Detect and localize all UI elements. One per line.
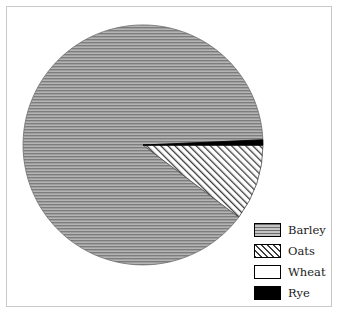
legend-label-oats: Oats — [288, 244, 315, 258]
chart-legend: Barley Oats Wheat Rye — [254, 221, 330, 302]
legend-swatch-wheat — [254, 265, 281, 279]
legend-swatch-oats — [254, 244, 281, 258]
legend-label-rye: Rye — [288, 286, 310, 300]
chart-canvas: Barley Oats Wheat Rye — [0, 0, 339, 320]
legend-swatch-barley — [254, 223, 281, 237]
legend-label-wheat: Wheat — [288, 265, 326, 279]
legend-item-rye[interactable]: Rye — [254, 284, 330, 302]
legend-item-oats[interactable]: Oats — [254, 242, 330, 260]
legend-label-barley: Barley — [288, 223, 326, 237]
legend-swatch-rye — [254, 286, 281, 300]
legend-item-wheat[interactable]: Wheat — [254, 263, 330, 281]
legend-item-barley[interactable]: Barley — [254, 221, 330, 239]
